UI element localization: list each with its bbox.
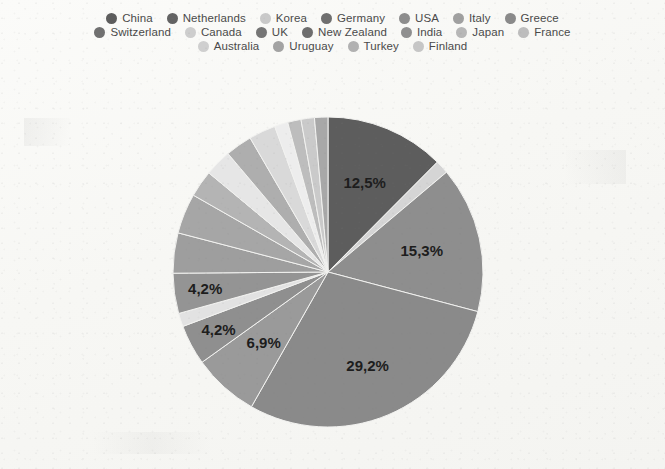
legend-item-label: Uruguay [289, 40, 333, 52]
legend-swatch-icon [505, 13, 516, 24]
legend-row-1: China Netherlands Korea Germany USA Ital… [99, 12, 566, 24]
slice-label-china: 12,5% [343, 174, 386, 191]
legend-item-label: China [122, 12, 153, 24]
legend-item-netherlands[interactable]: Netherlands [167, 12, 246, 24]
legend-swatch-icon [518, 27, 529, 38]
legend-item-label: Italy [469, 12, 491, 24]
legend-swatch-icon [399, 13, 410, 24]
legend-item-label: Finland [429, 40, 467, 52]
legend-swatch-icon [260, 13, 271, 24]
legend-item-label: Switzerland [110, 26, 171, 38]
legend-swatch-icon [167, 13, 178, 24]
slice-label-usa: 6,9% [247, 334, 281, 351]
chart-legend: China Netherlands Korea Germany USA Ital… [0, 12, 665, 52]
legend-swatch-icon [456, 27, 467, 38]
slice-label-switzerland: 4,2% [188, 280, 222, 297]
legend-item-label: France [534, 26, 570, 38]
legend-item-label: Korea [276, 12, 307, 24]
legend-item-label: New Zealand [318, 26, 387, 38]
legend-swatch-icon [106, 13, 117, 24]
legend-item-new-zealand[interactable]: New Zealand [302, 26, 387, 38]
legend-swatch-icon [453, 13, 464, 24]
legend-item-switzerland[interactable]: Switzerland [94, 26, 171, 38]
pie-chart-svg: 12,5%15,3%29,2%6,9%4,2%4,2% [0, 78, 665, 469]
legend-swatch-icon [273, 41, 284, 52]
legend-item-label: Netherlands [183, 12, 246, 24]
legend-item-greece[interactable]: Greece [505, 12, 559, 24]
legend-swatch-icon [256, 27, 267, 38]
legend-item-label: Germany [337, 12, 385, 24]
legend-item-usa[interactable]: USA [399, 12, 439, 24]
legend-item-canada[interactable]: Canada [185, 26, 242, 38]
legend-item-australia[interactable]: Australia [198, 40, 260, 52]
pie-slices [173, 117, 483, 427]
legend-swatch-icon [185, 27, 196, 38]
legend-item-label: USA [415, 12, 439, 24]
legend-item-turkey[interactable]: Turkey [348, 40, 399, 52]
chart-page: China Netherlands Korea Germany USA Ital… [0, 0, 665, 469]
legend-item-label: Japan [472, 26, 504, 38]
legend-item-label: India [417, 26, 442, 38]
legend-row-2: Switzerland Canada UK New Zealand India … [87, 26, 577, 38]
legend-swatch-icon [94, 27, 105, 38]
legend-item-india[interactable]: India [401, 26, 442, 38]
slice-label-germany: 29,2% [346, 357, 389, 374]
legend-item-label: Australia [214, 40, 260, 52]
pie-chart: 12,5%15,3%29,2%6,9%4,2%4,2% [0, 78, 665, 469]
slice-label-italy: 4,2% [201, 321, 235, 338]
legend-swatch-icon [401, 27, 412, 38]
legend-item-label: Turkey [364, 40, 399, 52]
legend-row-3: Australia Uruguay Turkey Finland [191, 40, 475, 52]
legend-item-france[interactable]: France [518, 26, 570, 38]
legend-item-uk[interactable]: UK [256, 26, 288, 38]
legend-item-japan[interactable]: Japan [456, 26, 504, 38]
legend-item-germany[interactable]: Germany [321, 12, 385, 24]
legend-swatch-icon [302, 27, 313, 38]
legend-swatch-icon [348, 41, 359, 52]
legend-item-finland[interactable]: Finland [413, 40, 467, 52]
legend-item-label: Canada [201, 26, 242, 38]
legend-item-uruguay[interactable]: Uruguay [273, 40, 333, 52]
legend-swatch-icon [198, 41, 209, 52]
legend-item-label: Greece [521, 12, 559, 24]
legend-item-korea[interactable]: Korea [260, 12, 307, 24]
legend-item-italy[interactable]: Italy [453, 12, 491, 24]
legend-item-label: UK [272, 26, 288, 38]
legend-swatch-icon [413, 41, 424, 52]
slice-label-korea: 15,3% [401, 242, 444, 259]
legend-swatch-icon [321, 13, 332, 24]
legend-item-china[interactable]: China [106, 12, 153, 24]
